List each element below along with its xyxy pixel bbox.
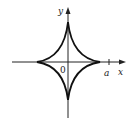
x-axis-label: x	[118, 67, 123, 77]
x-axis-arrow-icon	[119, 60, 126, 65]
y-axis-arrow-icon	[66, 7, 71, 14]
y-axis-label: y	[57, 6, 64, 16]
astroid-diagram: y x 0 a	[0, 0, 135, 121]
a-label: a	[104, 68, 109, 78]
origin-label: 0	[60, 65, 66, 75]
